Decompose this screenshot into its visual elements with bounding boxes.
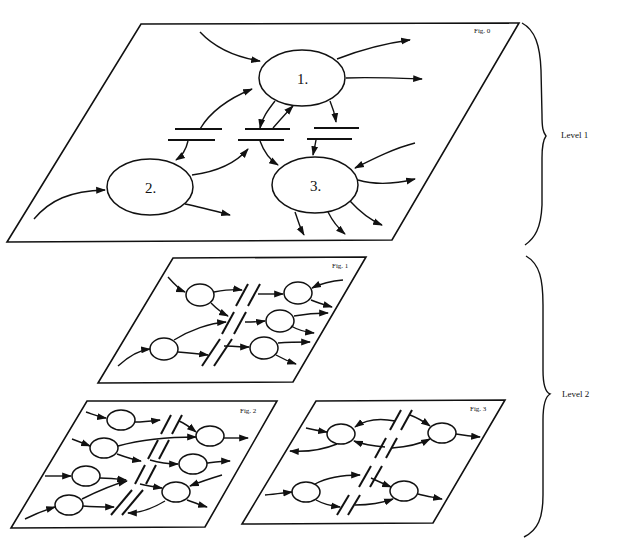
node-3: 3. (272, 157, 358, 213)
fig-3-plane: Fig. 3 (242, 400, 505, 524)
node-3-label: 3. (310, 178, 321, 194)
fig-2-label: Fig. 2 (240, 407, 257, 415)
fig-1-label: Fig. 1 (332, 262, 349, 270)
node-1: 1. (259, 50, 345, 106)
level-1-label: Level 1 (561, 130, 588, 140)
fig-0-label: Fig. 0 (474, 27, 491, 35)
level-2-brace: Level 2 (524, 256, 589, 537)
fig-2-plane: Fig. 2 (11, 401, 277, 528)
fig-3-label: Fig. 3 (470, 405, 487, 413)
node-2-label: 2. (145, 180, 156, 196)
fig-0-plane: Fig. 0 1. 2. 3. (7, 23, 519, 242)
level-1-brace: Level 1 (522, 23, 588, 245)
hierarchy-diagram: Fig. 0 1. 2. 3. (0, 0, 624, 557)
node-1-label: 1. (297, 71, 308, 87)
fig-1-plane: Fig. 1 (98, 257, 366, 383)
level-2-label: Level 2 (562, 389, 589, 399)
node-2: 2. (107, 159, 193, 215)
